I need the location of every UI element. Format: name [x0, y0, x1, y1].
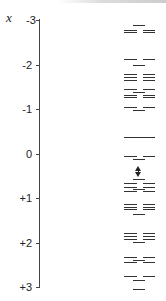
level-line	[124, 137, 155, 138]
level-line	[133, 92, 145, 93]
level-line	[143, 97, 155, 98]
level-line	[143, 183, 155, 184]
level-line	[143, 187, 155, 188]
level-line	[124, 276, 137, 277]
axis-tick-label: -2	[0, 60, 32, 71]
level-line	[124, 233, 137, 234]
arrow-head-down-icon	[135, 172, 141, 177]
axis-tick	[36, 287, 40, 288]
level-line	[143, 191, 155, 192]
axis-variable-label: x	[6, 11, 12, 24]
axis-tick	[36, 109, 40, 110]
level-line	[124, 95, 137, 96]
level-line	[143, 89, 155, 90]
level-line	[124, 239, 137, 240]
level-line	[133, 242, 145, 243]
level-line	[124, 204, 137, 205]
level-line	[124, 74, 137, 75]
axis-tick	[36, 65, 40, 66]
level-line	[143, 262, 155, 263]
level-line	[124, 30, 137, 31]
level-line	[124, 80, 137, 81]
level-line	[143, 233, 155, 234]
cropped-header-strip	[0, 0, 166, 3]
level-line	[143, 77, 155, 78]
level-line	[124, 97, 137, 98]
level-line	[133, 65, 145, 66]
level-line	[124, 187, 137, 188]
level-line	[143, 95, 155, 96]
level-line	[143, 257, 155, 258]
level-line	[143, 107, 155, 108]
level-line	[143, 32, 155, 33]
axis-tick-label: +1	[0, 193, 32, 204]
level-line	[133, 214, 145, 215]
level-line	[124, 156, 137, 157]
level-line	[133, 159, 145, 160]
level-line	[124, 89, 137, 90]
level-line	[143, 239, 155, 240]
level-line	[124, 191, 137, 192]
arrow-head-up-icon	[135, 166, 141, 171]
level-line	[124, 257, 137, 258]
axis-tick	[36, 198, 40, 199]
level-line	[133, 260, 145, 261]
level-line	[124, 207, 137, 208]
axis-tick-label: +3	[0, 282, 32, 293]
level-line	[143, 276, 155, 277]
level-line	[124, 236, 137, 237]
axis-tick-label: -3	[26, 15, 46, 26]
level-line	[133, 280, 145, 281]
level-line	[143, 74, 155, 75]
level-line	[143, 156, 155, 157]
level-line	[143, 80, 155, 81]
axis-tick-label: +2	[0, 238, 32, 249]
level-line	[124, 209, 137, 210]
level-line	[133, 289, 145, 290]
level-line	[143, 207, 155, 208]
level-line	[133, 179, 145, 180]
level-line	[124, 183, 137, 184]
level-line	[124, 59, 137, 60]
vertical-axis	[39, 19, 40, 287]
level-line	[143, 209, 155, 210]
axis-tick	[36, 154, 40, 155]
level-line	[124, 32, 137, 33]
level-line	[143, 204, 155, 205]
level-line	[143, 59, 155, 60]
axis-tick-label: -1	[0, 104, 32, 115]
axis-tick	[36, 243, 40, 244]
level-line	[133, 110, 145, 111]
level-line	[143, 30, 155, 31]
level-line	[124, 262, 137, 263]
axis-tick-label: 0	[0, 149, 32, 160]
level-line	[124, 107, 137, 108]
level-line	[143, 236, 155, 237]
level-line	[124, 77, 137, 78]
level-line	[133, 25, 145, 26]
level-line	[133, 189, 145, 190]
